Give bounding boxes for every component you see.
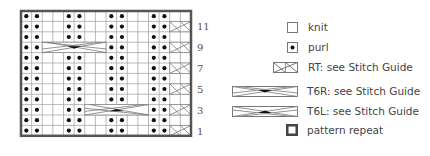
purl-dot <box>67 56 71 60</box>
purl-dot <box>109 45 113 49</box>
purl-dot <box>35 108 39 112</box>
purl-dot <box>162 108 166 112</box>
row-number-9: 9 <box>197 42 203 53</box>
purl-dot <box>152 35 156 39</box>
pattern-repeat-icon <box>286 124 298 136</box>
purl-dot <box>162 77 166 81</box>
purl-dot <box>120 87 124 91</box>
purl-dot <box>152 87 156 91</box>
purl-dot <box>77 14 81 18</box>
purl-dot <box>162 129 166 133</box>
t6r-cable-cell <box>42 42 106 52</box>
purl-dot <box>77 118 81 122</box>
t6l-cable-icon <box>232 106 298 117</box>
purl-dot <box>152 14 156 18</box>
purl-dot <box>67 25 71 29</box>
row-number-7: 7 <box>197 63 203 74</box>
purl-dot <box>109 97 113 101</box>
purl-dot <box>109 35 113 39</box>
purl-dot <box>152 129 156 133</box>
purl-dot <box>24 97 28 101</box>
purl-dot <box>35 25 39 29</box>
purl-dot <box>77 108 81 112</box>
purl-dot <box>67 77 71 81</box>
purl-dot <box>67 66 71 70</box>
purl-dot <box>35 97 39 101</box>
purl-dot <box>109 129 113 133</box>
purl-dot <box>152 45 156 49</box>
rt-cable-icon <box>273 62 298 73</box>
purl-dot <box>35 87 39 91</box>
legend-t6r-label: T6R: see Stitch Guide <box>307 85 420 97</box>
legend-rt-label: RT: see Stitch Guide <box>308 61 413 73</box>
t6r-cable-icon <box>232 86 298 97</box>
purl-dot <box>24 108 28 112</box>
purl-dot <box>162 97 166 101</box>
purl-dot <box>120 45 124 49</box>
purl-dot <box>120 97 124 101</box>
purl-dot <box>77 87 81 91</box>
purl-dot <box>162 45 166 49</box>
purl-dot <box>77 129 81 133</box>
purl-dot <box>35 14 39 18</box>
purl-dot <box>152 118 156 122</box>
row-number-11: 11 <box>197 21 210 32</box>
t6l-cable-cell <box>85 105 149 115</box>
legend-rt: RT: see Stitch Guide <box>273 61 413 73</box>
purl-dot <box>162 14 166 18</box>
purl-dot <box>24 87 28 91</box>
purl-dot <box>120 129 124 133</box>
legend-t6l: T6L: see Stitch Guide <box>232 105 419 117</box>
purl-dot <box>67 129 71 133</box>
purl-dot <box>109 25 113 29</box>
knit-symbol-icon <box>287 22 298 33</box>
purl-dot <box>77 66 81 70</box>
purl-dot <box>24 77 28 81</box>
purl-dot <box>162 66 166 70</box>
rt-cable-cell <box>170 105 191 115</box>
purl-dot <box>24 129 28 133</box>
row-number-3: 3 <box>197 105 203 116</box>
purl-dot <box>24 118 28 122</box>
purl-dot <box>152 108 156 112</box>
purl-dot <box>35 45 39 49</box>
purl-dot <box>77 77 81 81</box>
legend-repeat: pattern repeat <box>286 124 383 136</box>
purl-dot <box>24 35 28 39</box>
purl-dot <box>109 66 113 70</box>
purl-dot <box>24 66 28 70</box>
purl-dot <box>24 25 28 29</box>
purl-dot <box>152 66 156 70</box>
knitting-chart <box>0 0 215 156</box>
purl-dot <box>35 77 39 81</box>
row-number-5: 5 <box>197 84 203 95</box>
purl-symbol-icon <box>287 42 298 53</box>
purl-dot <box>152 25 156 29</box>
purl-dot <box>120 14 124 18</box>
purl-dot <box>162 87 166 91</box>
purl-dot <box>162 118 166 122</box>
purl-dot <box>24 56 28 60</box>
purl-dot <box>35 35 39 39</box>
purl-dot <box>77 25 81 29</box>
purl-dot <box>24 45 28 49</box>
purl-dot <box>109 87 113 91</box>
purl-dot <box>77 56 81 60</box>
purl-dot <box>35 66 39 70</box>
purl-dot <box>152 77 156 81</box>
purl-dot <box>35 129 39 133</box>
purl-dot <box>67 14 71 18</box>
legend-knit-label: knit <box>308 21 328 33</box>
purl-dot <box>35 56 39 60</box>
purl-dot <box>109 77 113 81</box>
purl-dot <box>35 118 39 122</box>
purl-dot <box>152 97 156 101</box>
purl-dot <box>24 14 28 18</box>
purl-dot <box>120 25 124 29</box>
legend-t6r: T6R: see Stitch Guide <box>232 85 420 97</box>
purl-dot <box>120 35 124 39</box>
legend-knit: knit <box>287 21 328 33</box>
row-number-1: 1 <box>197 126 203 137</box>
purl-dot <box>162 25 166 29</box>
purl-dot <box>77 35 81 39</box>
